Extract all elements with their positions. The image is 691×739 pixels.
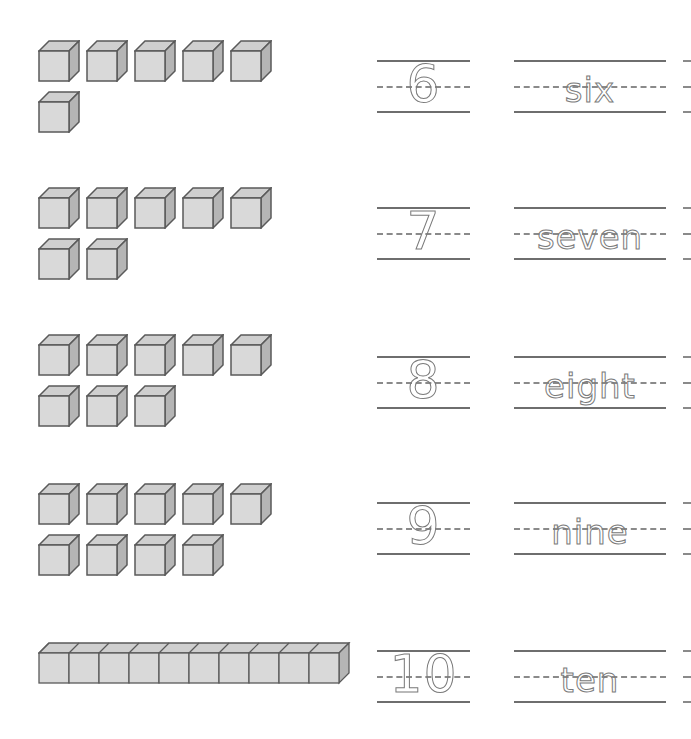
word-tracing-trace-text: seven [514, 215, 666, 259]
top-line [514, 207, 666, 209]
top-line [514, 650, 666, 652]
word-tracing-trace-text: eight [514, 364, 666, 408]
word-tracing-trace-text: ten [514, 658, 666, 702]
cube-icon [134, 187, 176, 229]
cube-icon [38, 334, 80, 376]
cube-icon [182, 187, 224, 229]
cube-icon [182, 334, 224, 376]
cube-icon [230, 483, 272, 525]
margin-guide-mark [683, 407, 691, 409]
cube-icon [86, 534, 128, 576]
number-tracing-trace-text: 8 [377, 348, 470, 412]
cube-icon [38, 187, 80, 229]
cube-icon [38, 385, 80, 427]
margin-guide-mark [683, 650, 691, 652]
margin-guide-mark [683, 382, 691, 384]
number-tracing-lines: 10 [377, 650, 470, 706]
number-tracing-lines: 7 [377, 207, 470, 263]
margin-guide-mark [683, 356, 691, 358]
word-tracing-lines: seven [514, 207, 666, 263]
top-line [514, 356, 666, 358]
cube-icon [86, 238, 128, 280]
number-tracing-trace-text: 10 [377, 642, 470, 706]
top-line [514, 502, 666, 504]
cube-icon [86, 334, 128, 376]
ten-rod-icon [38, 642, 351, 689]
word-tracing-lines: eight [514, 356, 666, 412]
word-tracing-lines: nine [514, 502, 666, 558]
cube-icon [38, 483, 80, 525]
cube-icon [86, 385, 128, 427]
cube-icon [182, 534, 224, 576]
cube-icon [134, 483, 176, 525]
cube-icon [230, 334, 272, 376]
margin-guide-mark [683, 207, 691, 209]
cube-icon [38, 238, 80, 280]
cube-icon [134, 534, 176, 576]
number-tracing-trace-text: 9 [377, 494, 470, 558]
margin-guide-mark [683, 502, 691, 504]
worksheet-row-10: 10 ten [0, 0, 691, 130]
cube-icon [182, 483, 224, 525]
margin-guide-mark [683, 233, 691, 235]
number-tracing-lines: 8 [377, 356, 470, 412]
margin-guide-mark [683, 528, 691, 530]
cube-icon [134, 385, 176, 427]
margin-guide-mark [683, 553, 691, 555]
number-tracing-trace-text: 7 [377, 199, 470, 263]
cube-icon [134, 334, 176, 376]
number-tracing-lines: 9 [377, 502, 470, 558]
margin-guide-mark [683, 676, 691, 678]
word-tracing-lines: ten [514, 650, 666, 706]
word-tracing-trace-text: nine [514, 510, 666, 554]
cube-icon [230, 187, 272, 229]
cube-icon [86, 187, 128, 229]
margin-guide-mark [683, 701, 691, 703]
margin-guide-mark [683, 258, 691, 260]
cube-icon [86, 483, 128, 525]
cube-icon [38, 534, 80, 576]
